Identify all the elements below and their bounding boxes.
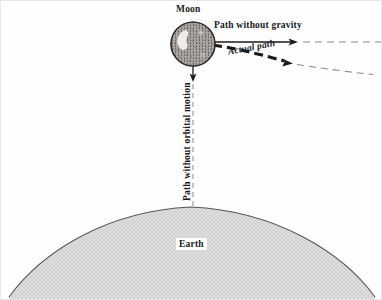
- moon-label: Moon: [176, 4, 201, 14]
- diagram-figure: Moon Path without gravity Actual path Pa…: [0, 0, 382, 300]
- path-without-orbital-motion-label: Path without orbital motion: [182, 82, 192, 201]
- path-without-gravity-label: Path without gravity: [214, 20, 302, 30]
- earth-label: Earth: [176, 238, 207, 250]
- earth-body: [9, 207, 375, 300]
- moon-body: [169, 20, 217, 68]
